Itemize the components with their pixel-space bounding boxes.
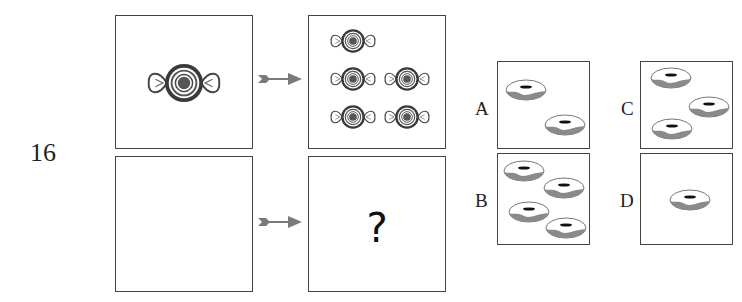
donut-icon: [650, 67, 692, 89]
candy-icon: [329, 66, 377, 92]
question-mark: ?: [309, 205, 445, 251]
prompt-cell-top-left: [115, 15, 253, 149]
donut-icon: [669, 189, 711, 211]
donut-icon: [545, 217, 587, 239]
donut-icon: [651, 118, 693, 140]
candy-icon: [383, 66, 431, 92]
candy-icon: [145, 62, 223, 104]
donut-icon: [505, 79, 547, 101]
donut-icon: [543, 177, 585, 199]
option-label-d: D: [620, 190, 634, 212]
donut-icon: [688, 96, 730, 118]
prompt-cell-bottom-right: ?: [308, 156, 446, 292]
donut-icon: [544, 114, 586, 136]
prompt-cell-top-right: [308, 15, 446, 149]
candy-icon: [383, 104, 431, 130]
option-d[interactable]: [640, 153, 733, 245]
option-label-b: B: [475, 190, 488, 212]
arrow-icon: [258, 215, 302, 229]
question-number: 16: [30, 138, 56, 168]
option-a[interactable]: [497, 61, 590, 149]
arrow-icon: [258, 72, 302, 86]
candy-icon: [329, 28, 377, 54]
option-c[interactable]: [640, 61, 733, 149]
donut-icon: [503, 160, 545, 182]
option-b[interactable]: [497, 153, 590, 245]
option-label-c: C: [621, 98, 634, 120]
option-label-a: A: [475, 98, 489, 120]
candy-icon: [329, 104, 377, 130]
prompt-cell-bottom-left: [115, 156, 253, 292]
donut-icon: [508, 201, 550, 223]
